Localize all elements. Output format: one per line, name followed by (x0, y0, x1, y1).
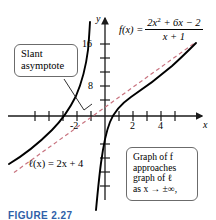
approach-callout-line-4: as x → ±∞, (133, 184, 192, 195)
slant-asymptote-callout: Slant asymptote (14, 44, 78, 77)
x-tick-label-4: 4 (158, 120, 163, 131)
x-tick-label-2: 2 (130, 120, 135, 131)
equation-denominator: x + 1 (161, 31, 187, 42)
y-tick-label-16: 16 (82, 38, 92, 49)
y-tick-label-8: 8 (88, 80, 93, 91)
equation-fraction: 2x2 + 6x − 2 x + 1 (145, 17, 202, 42)
figure-caption: FIGURE 2.27 (8, 210, 72, 220)
numerator-term: 2x (147, 17, 157, 28)
function-equation-label: f(x) = 2x2 + 6x − 2 x + 1 (119, 17, 203, 42)
x-tick-label-neg2: -2 (70, 120, 78, 131)
y-axis-label: y (96, 13, 100, 24)
equation-numerator: 2x2 + 6x − 2 (145, 17, 202, 28)
equation-left-side: f(x) = (119, 24, 143, 35)
slant-callout-line-1: Slant (21, 48, 72, 60)
numerator-rest: + 6x − 2 (161, 17, 201, 28)
x-axis-label: x (203, 119, 207, 130)
approach-callout: Graph of f approaches graph of ℓ as x → … (126, 147, 198, 201)
slant-callout-line-2: asymptote (21, 60, 72, 72)
fraction-bar (145, 29, 202, 30)
slant-asymptote-equation-label: ℓ(x) = 2x + 4 (28, 158, 83, 169)
figure-container: f(x) = 2x2 + 6x − 2 x + 1 y x -2 2 4 8 1… (0, 0, 216, 220)
